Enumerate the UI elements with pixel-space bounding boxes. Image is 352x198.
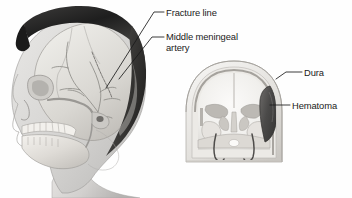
label-mma-line1: Middle meningeal [166,31,238,42]
coronal-section-illustration [186,61,282,162]
label-dura: Dura [304,67,324,78]
leader-dura [276,72,302,79]
external-auditory-meatus [96,116,103,122]
lateral-head-illustration [12,6,146,198]
label-fracture-line: Fracture line [166,7,217,18]
nasal-septum [231,112,237,132]
orbit-eye-socket [28,75,54,100]
label-mma-line2: artery [166,42,238,53]
illustration-canvas [0,0,352,198]
label-hematoma: Hematoma [292,100,337,111]
sphenoid-center [229,139,239,146]
label-middle-meningeal-artery: Middle meningeal artery [166,31,238,54]
medical-illustration-figure: Fracture line Middle meningeal artery Du… [0,0,352,198]
temporal-strut-left [200,108,203,126]
